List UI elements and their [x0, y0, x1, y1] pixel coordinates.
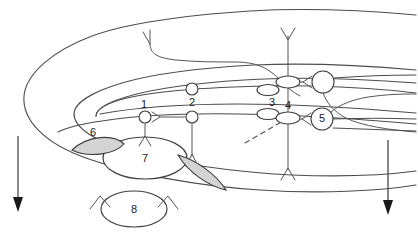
crossing-fiber-descending: [323, 93, 416, 132]
label-2: 2: [189, 96, 195, 108]
descending-axon-dendrite-fork: [143, 30, 150, 44]
right-band-line-lower: [333, 128, 416, 131]
right-band-line-upper: [334, 75, 416, 78]
schematic-diagram: 1 2 3 4 5 6 7 8: [0, 0, 418, 237]
neuron-2-upper-soma[interactable]: [186, 83, 198, 95]
upper-right-soma[interactable]: [312, 71, 334, 93]
label-6: 6: [90, 126, 96, 138]
neuron-5-synapse-arrowhead: [302, 113, 311, 125]
label-4: 4: [285, 99, 291, 111]
label-7: 7: [142, 152, 148, 164]
label-8: 8: [131, 203, 137, 215]
neuron-2-soma[interactable]: [186, 111, 198, 123]
outer-band-inner-upper-contour: [74, 64, 416, 114]
neuron-1-synapse-arrowhead: [152, 112, 160, 122]
shaded-lens-right[interactable]: [178, 155, 226, 190]
terminal-4[interactable]: [276, 112, 300, 124]
diagram-canvas: 1 2 3 4 5 6 7 8: [0, 0, 418, 237]
label-3: 3: [269, 96, 275, 108]
neuron-1-soma[interactable]: [139, 111, 151, 123]
terminal-upper-bouton[interactable]: [276, 76, 300, 88]
left-direction-arrow-head: [13, 197, 23, 212]
label-5: 5: [319, 112, 325, 124]
label-1: 1: [141, 98, 147, 110]
right-band-line-mid: [333, 118, 416, 119]
right-direction-arrow-head: [383, 200, 393, 215]
terminal-3-upper[interactable]: [257, 85, 279, 96]
dashed-projection-line: [245, 121, 283, 143]
